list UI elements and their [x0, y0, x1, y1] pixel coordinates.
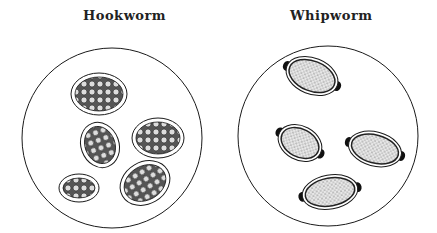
- hookworm-egg: [132, 118, 184, 158]
- hookworm-egg: [74, 117, 125, 173]
- hookworm-egg: [71, 73, 127, 115]
- whipworm-egg: [341, 125, 410, 174]
- whipworm-egg: [268, 115, 332, 170]
- diagram-canvas: [0, 0, 437, 233]
- hookworm-field: [22, 48, 202, 228]
- hookworm-egg: [112, 152, 178, 214]
- whipworm-field: [238, 46, 418, 226]
- whipworm-egg: [296, 170, 365, 215]
- hookworm-egg: [59, 174, 99, 202]
